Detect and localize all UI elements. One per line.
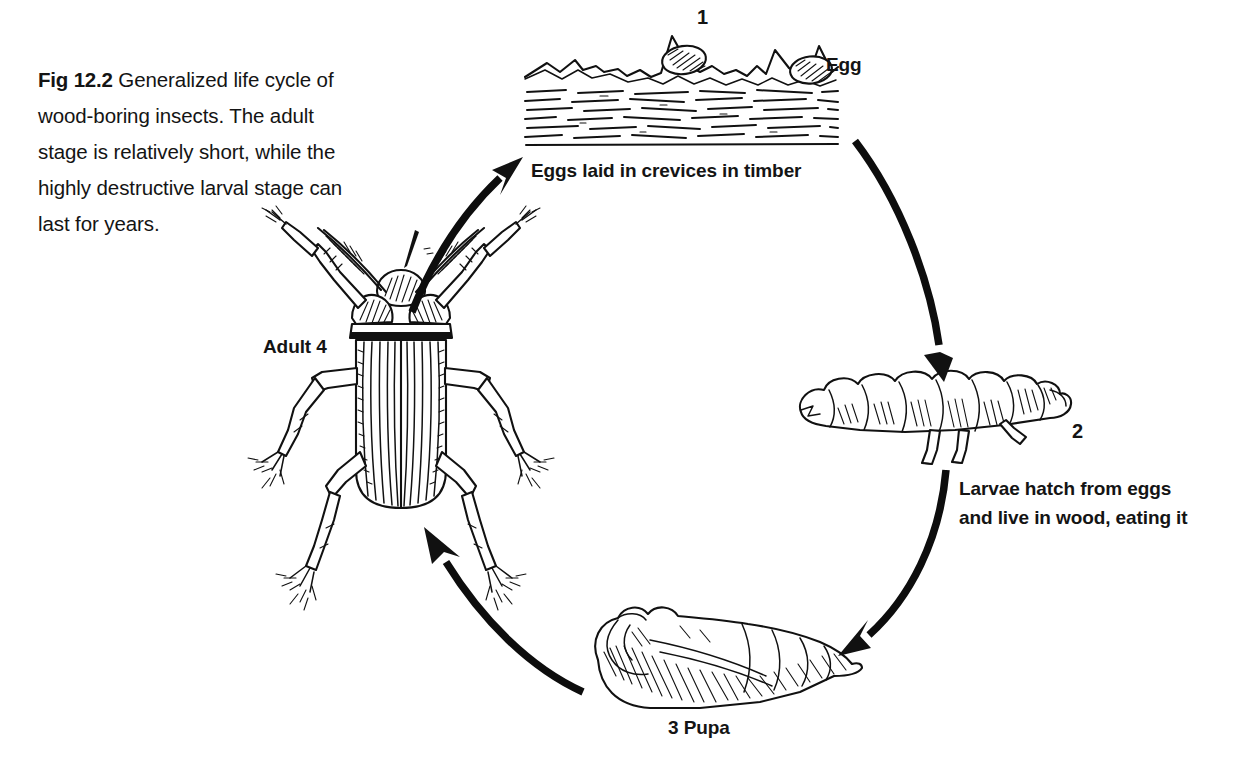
larva-legs xyxy=(922,420,1026,464)
illustration-timber-with-eggs xyxy=(525,36,838,145)
figure-number: Fig 12.2 xyxy=(38,68,113,91)
figure-caption: Fig 12.2 Generalized life cycle of wood-… xyxy=(38,62,358,242)
stage-2-caption-line-2: and live in wood, eating it xyxy=(959,507,1187,528)
stage-number-2: 2 xyxy=(1072,420,1083,443)
figure-caption-text: Generalized life cycle of wood-boring in… xyxy=(38,68,342,235)
stage-number-1: 1 xyxy=(697,6,708,29)
stage-3-caption: 3 Pupa xyxy=(668,717,730,739)
beetle-middle-legs xyxy=(248,368,554,488)
illustration-adult-beetle xyxy=(248,206,554,610)
label-egg: Egg xyxy=(826,54,862,76)
arrow-adult-to-egg xyxy=(412,157,523,312)
illustration-larva xyxy=(800,371,1071,464)
figure-life-cycle-of-wood-boring-insects: Fig 12.2 Generalized life cycle of wood-… xyxy=(0,0,1252,770)
arrow-egg-to-larva xyxy=(855,141,953,382)
stage-1-caption: Eggs laid in crevices in timber xyxy=(531,160,801,182)
cycle-arrows xyxy=(412,141,953,692)
stage-4-caption: Adult 4 xyxy=(263,336,327,358)
illustration-pupa xyxy=(595,607,862,708)
arrow-larva-to-pupa xyxy=(838,470,946,656)
stage-2-caption-line-1: Larvae hatch from eggs xyxy=(959,478,1171,499)
beetle-hind-legs xyxy=(276,452,526,610)
stage-2-caption: Larvae hatch from eggs and live in wood,… xyxy=(959,474,1187,532)
arrow-pupa-to-adult xyxy=(424,527,583,692)
egg-1 xyxy=(660,43,707,77)
